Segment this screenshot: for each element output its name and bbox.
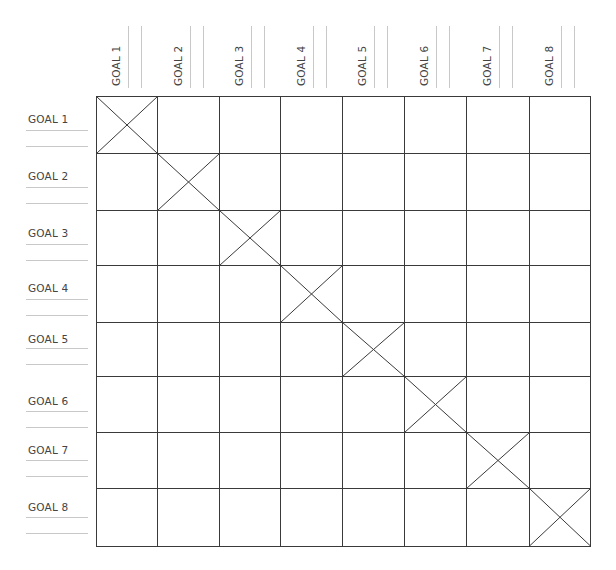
comparison-cell[interactable] — [343, 489, 405, 547]
comparison-cell[interactable] — [530, 96, 592, 154]
comparison-cell[interactable] — [220, 377, 281, 433]
comparison-cell[interactable] — [96, 323, 158, 377]
comparison-cell[interactable] — [220, 433, 281, 489]
comparison-cell[interactable] — [343, 377, 405, 433]
pairwise-comparison-matrix: GOAL 1 GOAL 2 GOAL 3 GOAL 4 GOAL 5 GOAL … — [0, 0, 616, 570]
comparison-cell[interactable] — [158, 266, 220, 323]
comparison-cell[interactable] — [467, 266, 530, 323]
comparison-cell[interactable] — [158, 211, 220, 266]
comparison-cell[interactable] — [96, 489, 158, 547]
diagonal-cell — [158, 154, 220, 211]
comparison-cell[interactable] — [281, 377, 343, 433]
comparison-cell[interactable] — [405, 96, 467, 154]
comparison-cell[interactable] — [467, 96, 530, 154]
comparison-cell[interactable] — [530, 323, 592, 377]
comparison-cell[interactable] — [405, 323, 467, 377]
diagonal-cell — [530, 489, 592, 547]
diagonal-cell — [343, 323, 405, 377]
comparison-cell[interactable] — [220, 266, 281, 323]
comparison-cell[interactable] — [405, 266, 467, 323]
diagonal-cell — [281, 266, 343, 323]
comparison-cell[interactable] — [281, 433, 343, 489]
comparison-cell[interactable] — [343, 211, 405, 266]
comparison-cell[interactable] — [467, 154, 530, 211]
comparison-cell[interactable] — [343, 96, 405, 154]
comparison-cell[interactable] — [158, 433, 220, 489]
comparison-cell[interactable] — [158, 323, 220, 377]
comparison-cell[interactable] — [96, 433, 158, 489]
diagonal-cell — [405, 377, 467, 433]
comparison-cell[interactable] — [530, 433, 592, 489]
comparison-cell[interactable] — [281, 96, 343, 154]
diagonal-cell — [467, 433, 530, 489]
comparison-cell[interactable] — [220, 154, 281, 211]
comparison-cell[interactable] — [405, 211, 467, 266]
comparison-cell[interactable] — [467, 377, 530, 433]
diagonal-cell — [220, 211, 281, 266]
comparison-cell[interactable] — [343, 154, 405, 211]
comparison-cell[interactable] — [405, 433, 467, 489]
comparison-cell[interactable] — [530, 377, 592, 433]
comparison-cell[interactable] — [467, 323, 530, 377]
comparison-cell[interactable] — [405, 154, 467, 211]
comparison-cell[interactable] — [530, 211, 592, 266]
comparison-cell[interactable] — [281, 489, 343, 547]
comparison-cell[interactable] — [96, 266, 158, 323]
comparison-cell[interactable] — [343, 433, 405, 489]
comparison-cell[interactable] — [405, 489, 467, 547]
comparison-cell[interactable] — [220, 323, 281, 377]
comparison-cell[interactable] — [530, 266, 592, 323]
comparison-cell[interactable] — [281, 211, 343, 266]
diagonal-cell — [96, 96, 158, 154]
comparison-cell[interactable] — [158, 96, 220, 154]
comparison-cell[interactable] — [96, 377, 158, 433]
comparison-cell[interactable] — [158, 377, 220, 433]
comparison-cell[interactable] — [281, 154, 343, 211]
comparison-cell[interactable] — [96, 211, 158, 266]
comparison-cell[interactable] — [220, 96, 281, 154]
comparison-cell[interactable] — [530, 154, 592, 211]
comparison-cell[interactable] — [281, 323, 343, 377]
comparison-cell[interactable] — [220, 489, 281, 547]
comparison-cell[interactable] — [467, 489, 530, 547]
comparison-cell[interactable] — [158, 489, 220, 547]
comparison-cell[interactable] — [467, 211, 530, 266]
comparison-cell[interactable] — [96, 154, 158, 211]
comparison-cell[interactable] — [343, 266, 405, 323]
